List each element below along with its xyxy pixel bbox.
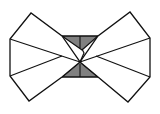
left-wing-outline [10, 13, 80, 101]
right-wing-panel [80, 12, 150, 102]
diagram-canvas [0, 0, 160, 114]
bow-tie-diagram [0, 0, 160, 114]
left-wing-panel [10, 13, 80, 101]
right-wing-outline [80, 12, 150, 102]
